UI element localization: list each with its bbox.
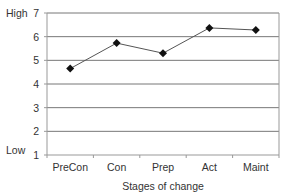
x-tick-label: Prep xyxy=(152,161,174,173)
y-tick-label: 4 xyxy=(33,78,39,90)
data-markers xyxy=(66,24,260,73)
diamond-marker xyxy=(66,65,74,73)
y-tick-label: 2 xyxy=(33,125,39,137)
y-low-annotation: Low xyxy=(6,144,26,156)
x-axis-title: Stages of change xyxy=(122,180,204,192)
diamond-marker xyxy=(252,26,260,34)
y-tick-label: 7 xyxy=(33,7,39,19)
diamond-marker xyxy=(205,24,213,32)
y-tick-label: 6 xyxy=(33,31,39,43)
x-tick-label: PreCon xyxy=(52,161,88,173)
y-tick-label: 5 xyxy=(33,54,39,66)
diamond-marker xyxy=(159,49,167,57)
gridlines xyxy=(47,13,279,131)
diamond-marker xyxy=(113,39,121,47)
x-tick-label: Maint xyxy=(243,161,269,173)
y-tick-label: 3 xyxy=(33,102,39,114)
y-tick-label: 1 xyxy=(33,149,39,161)
line-chart: 1234567 PreConConPrepActMaint High Low S… xyxy=(0,0,287,196)
x-axis-ticks: PreConConPrepActMaint xyxy=(47,155,279,173)
series-line xyxy=(70,28,256,69)
y-high-annotation: High xyxy=(6,7,28,19)
x-tick-label: Con xyxy=(107,161,126,173)
y-axis-ticks: 1234567 xyxy=(33,7,47,161)
x-tick-label: Act xyxy=(202,161,217,173)
